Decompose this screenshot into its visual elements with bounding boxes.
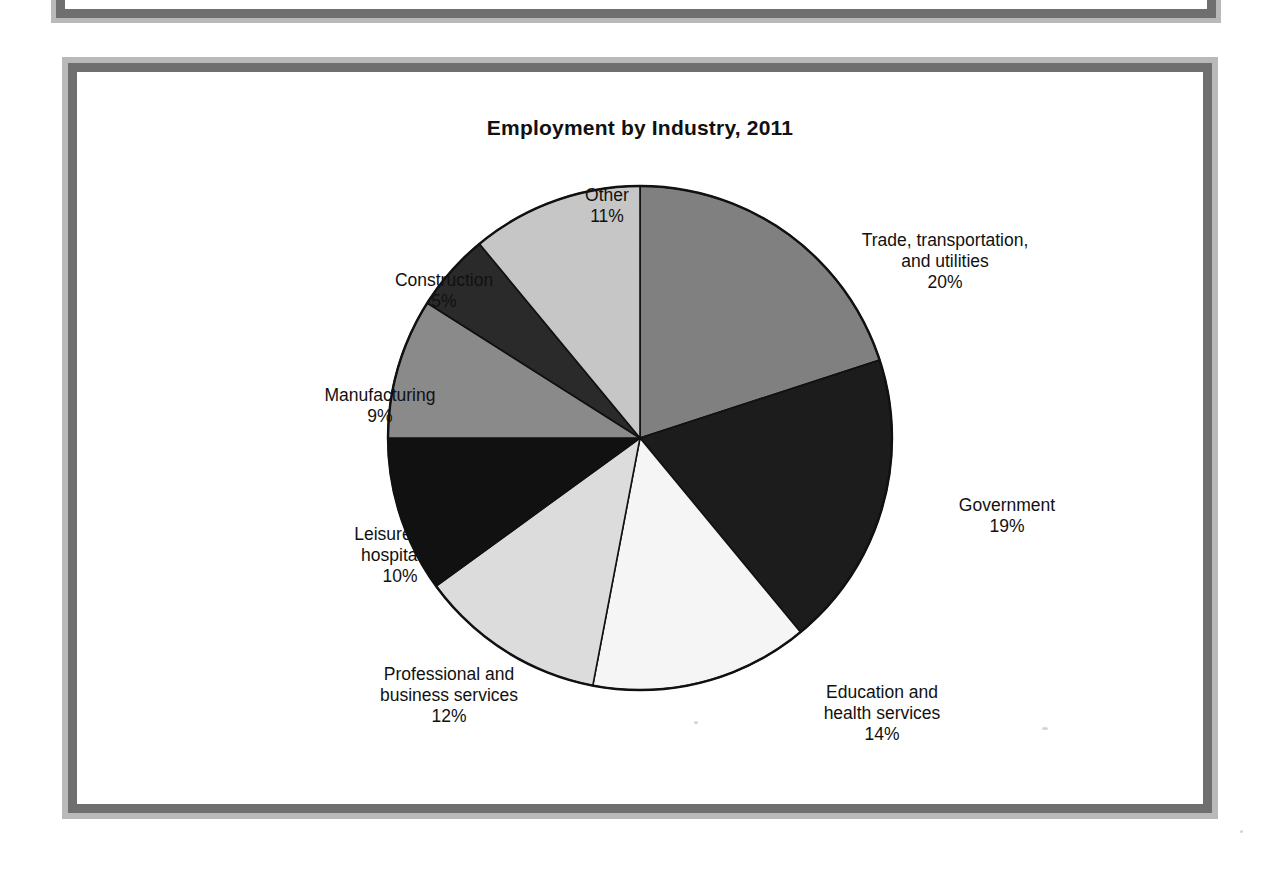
scan-speckle (694, 721, 698, 724)
scan-speckle (1042, 727, 1048, 730)
pie-label-trade: Trade, transportation, and utilities 20% (825, 230, 1065, 293)
chart-frame-inner: Employment by Industry, 2011 Trade, tran… (68, 63, 1212, 813)
pie-label-leisure: Leisure and hospitality 10% (295, 524, 505, 587)
pie-label-education: Education and health services 14% (767, 682, 997, 745)
pie-chart-svg (380, 178, 900, 698)
scan-speckle (1240, 830, 1243, 833)
scanned-page: Employment by Industry, 2011 Trade, tran… (0, 0, 1268, 873)
chart-frame: Employment by Industry, 2011 Trade, tran… (62, 57, 1218, 819)
pie-label-manufacturing: Manufacturing 9% (265, 385, 495, 427)
pie-chart (77, 72, 1203, 804)
pie-label-government: Government 19% (907, 495, 1107, 537)
pie-label-construction: Construction 5% (339, 270, 549, 312)
upper-frame-fragment (56, 0, 1216, 18)
pie-label-other: Other 11% (517, 185, 697, 227)
pie-label-professional: Professional and business services 12% (329, 664, 569, 727)
